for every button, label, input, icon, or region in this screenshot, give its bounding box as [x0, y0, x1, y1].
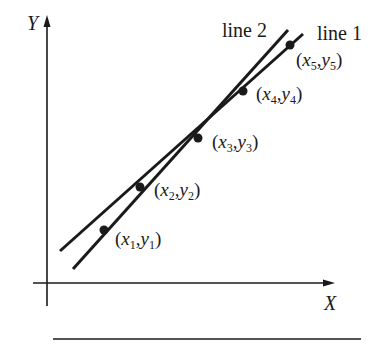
point-label-2: (x2,y2): [154, 179, 200, 203]
point-label-1: (x1,y1): [115, 228, 161, 252]
line-2-label: line 2: [222, 19, 267, 41]
line-1: [60, 34, 303, 251]
line-1-label: line 1: [317, 22, 362, 44]
data-point-4: [239, 87, 248, 96]
data-point-5: [286, 41, 295, 50]
point-label-3: (x3,y3): [212, 131, 258, 155]
data-point-3: [194, 134, 203, 143]
data-point-1: [100, 226, 109, 235]
y-axis-label: Y: [27, 12, 40, 34]
x-axis-arrow-icon: [323, 280, 335, 287]
point-label-4: (x4,y4): [256, 83, 302, 107]
y-axis: [44, 15, 51, 306]
x-axis: [33, 280, 335, 287]
y-axis-arrow-icon: [44, 15, 51, 27]
data-point-2: [136, 183, 145, 192]
regression-lines-diagram: Y X line 2 line 1 (x1,y1) (x2,y2) (x3,y3…: [0, 0, 391, 352]
x-axis-label: X: [323, 292, 337, 314]
point-label-5: (x5,y5): [296, 49, 342, 73]
